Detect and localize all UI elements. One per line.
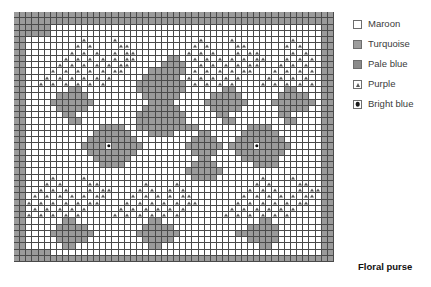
pattern-chart xyxy=(14,12,334,262)
chart-caption: Floral purse xyxy=(358,261,412,272)
legend-item-purple: Purple xyxy=(353,74,429,94)
chart-cell xyxy=(328,256,334,262)
pale-blue-swatch-icon xyxy=(353,60,362,69)
legend-label: Bright blue xyxy=(368,99,413,109)
legend-item-bright-blue: Bright blue xyxy=(353,94,429,114)
legend: Maroon Turquoise Pale blue Purple Bright… xyxy=(353,14,429,114)
legend-item-maroon: Maroon xyxy=(353,14,429,34)
legend-item-pale-blue: Pale blue xyxy=(353,54,429,74)
dot-symbol-icon xyxy=(353,100,362,109)
legend-label: Maroon xyxy=(368,19,400,29)
maroon-swatch-icon xyxy=(353,20,362,29)
legend-item-turquoise: Turquoise xyxy=(353,34,429,54)
legend-label: Pale blue xyxy=(368,59,408,69)
legend-label: Turquoise xyxy=(368,39,410,49)
legend-label: Purple xyxy=(368,79,395,89)
turquoise-swatch-icon xyxy=(353,40,362,49)
pattern-grid xyxy=(14,12,334,262)
triangle-symbol-icon xyxy=(353,80,362,89)
